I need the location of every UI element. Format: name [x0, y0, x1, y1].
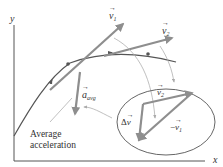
- inset-delta-v-vector: [139, 104, 143, 140]
- leader-arc-v1: [114, 38, 155, 118]
- v2-label: v2: [162, 26, 169, 37]
- v2-vector: [104, 38, 172, 56]
- point-1: [66, 62, 70, 66]
- leader-arc-accel: [84, 107, 112, 118]
- point-2: [146, 52, 150, 56]
- caption-line-2: acceleration: [30, 140, 76, 151]
- inset-v2-label: v2: [157, 88, 164, 98]
- y-axis-label: y: [10, 14, 14, 24]
- caption-leader-line: [50, 98, 72, 122]
- a-avg-vector: [75, 72, 80, 114]
- caption-line-1: Average: [30, 129, 76, 140]
- leader-arc-v2: [160, 46, 174, 82]
- x-axis-label: x: [213, 155, 217, 165]
- neg-v1-label: −v1: [170, 123, 182, 133]
- v1-vector: [50, 24, 123, 90]
- a-avg-label: aavg: [82, 90, 96, 101]
- caption: Average acceleration: [30, 129, 76, 151]
- v1-label: v1: [109, 11, 116, 22]
- delta-v-label: Δv: [121, 118, 131, 127]
